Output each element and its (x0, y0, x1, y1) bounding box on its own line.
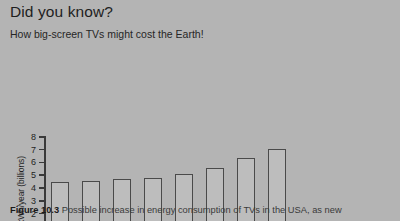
y-axis-tick-label: 3 (31, 196, 36, 205)
y-axis-tick-label: 6 (31, 158, 36, 167)
y-axis-tick-label: 7 (31, 145, 36, 154)
y-axis-tick-label: 5 (31, 171, 36, 180)
figure-caption-label: Figure 10.3 (10, 205, 59, 215)
page-headline: Did you know? (10, 3, 113, 21)
bar-chart-figure: kWh/year (billions) 012345678 2002200320… (0, 60, 400, 195)
page-subheadline: How big-screen TVs might cost the Earth! (10, 28, 204, 40)
figure-caption: Figure 10.3 Possible increase in energy … (10, 205, 396, 217)
y-axis-tick-label: 8 (31, 132, 36, 141)
figure-page: Did you know? How big-screen TVs might c… (0, 0, 400, 221)
figure-caption-text: Possible increase in energy consumption … (62, 205, 342, 215)
y-axis-tick-label: 4 (31, 184, 36, 193)
